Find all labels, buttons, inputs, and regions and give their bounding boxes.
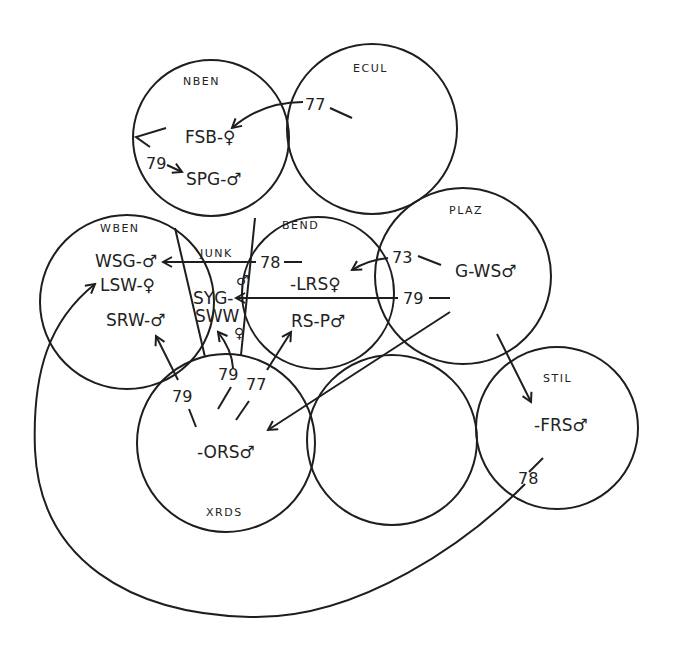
arrow-ecul-fsb [232,102,303,128]
year-bend-wsg: 78 [260,253,280,272]
node-srw: SRW-♂ [106,310,165,330]
arrow-xrds-srw [156,336,178,380]
tail-xrds-rsp [236,401,249,420]
node-lsw: LSW-♀ [100,275,155,295]
node-wsg: WSG-♂ [95,251,157,271]
tail-nben-spg [136,128,166,147]
arrow-plaz-lrs [352,258,388,270]
node-gws: G-WS♂ [455,261,516,281]
year-xrds-srw: 79 [172,387,192,406]
region-label-plaz: PLAZ [449,204,483,217]
node-frs: -FRS♂ [534,415,588,435]
arrow-frs-lsw [35,284,525,617]
year-plaz-lrs: 73 [392,248,412,267]
region-label-junk: JUNK [199,247,233,260]
node-sww: SWW [195,306,240,326]
year-plaz-syg: 79 [403,289,423,308]
tail-ecul-fsb [330,108,352,118]
node-syg-symbol: ♂ [236,272,249,288]
territory-diagram: NBEN ECUL WBEN JUNK BEND PLAZ STIL XRDS … [0,0,677,647]
region-label-bend: BEND [282,219,319,232]
node-spg: SPG-♂ [186,169,242,189]
region-circle-unnamed [307,355,477,525]
tail-plaz-lrs [418,256,441,265]
region-label-nben: NBEN [183,75,220,88]
year-ecul-fsb: 77 [305,95,325,114]
node-ors: -ORS♂ [197,442,255,462]
arrow-xrds-sww [218,332,233,368]
node-sww-symbol: ♀ [234,325,244,341]
node-rsp: RS-P♂ [291,311,345,331]
tail-xrds-sww [218,387,231,409]
arrow-xrds-rsp [267,332,291,370]
year-nben-spg: 79 [146,154,166,173]
region-label-ecul: ECUL [353,62,388,75]
year-frs-lsw: 78 [518,469,538,488]
year-xrds-sww: 79 [218,365,238,384]
region-label-stil: STIL [543,372,572,385]
year-xrds-rsp: 77 [246,375,266,394]
node-lrs: -LRS♀ [290,274,341,294]
arrow-nben-spg [167,165,182,172]
region-label-wben: WBEN [100,222,140,235]
node-syg: SYG- [193,288,233,308]
node-fsb: FSB-♀ [185,127,236,147]
tail-xrds-srw [189,409,196,427]
region-label-xrds: XRDS [206,506,243,519]
